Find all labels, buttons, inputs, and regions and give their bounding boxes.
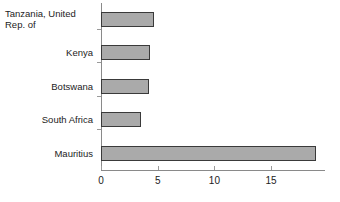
- value-axis-tick-label: 10: [194, 175, 234, 187]
- bar: [101, 146, 316, 161]
- value-axis-tick: [158, 166, 159, 170]
- category-axis-tick: [97, 96, 101, 97]
- category-label: Kenya: [0, 47, 93, 58]
- category-label: South Africa: [0, 114, 93, 125]
- category-axis-tick: [97, 129, 101, 130]
- category-label: Mauritius: [0, 148, 93, 159]
- value-axis-tick: [214, 166, 215, 170]
- category-label: Tanzania, United Rep. of: [5, 8, 103, 30]
- bar: [101, 112, 141, 127]
- value-axis-tick-label: 5: [138, 175, 178, 187]
- bar-chart: 051015 Tanzania, United Rep. ofKenyaBots…: [0, 0, 340, 202]
- bar: [101, 45, 150, 60]
- value-axis-tick-label: 15: [251, 175, 291, 187]
- value-axis-tick: [101, 166, 102, 170]
- value-axis-line: [101, 170, 325, 171]
- category-axis-tick: [97, 62, 101, 63]
- category-label: Botswana: [0, 81, 93, 92]
- bar: [101, 12, 154, 27]
- value-axis-tick: [271, 166, 272, 170]
- value-axis-tick-label: 0: [81, 175, 121, 187]
- bar: [101, 79, 149, 94]
